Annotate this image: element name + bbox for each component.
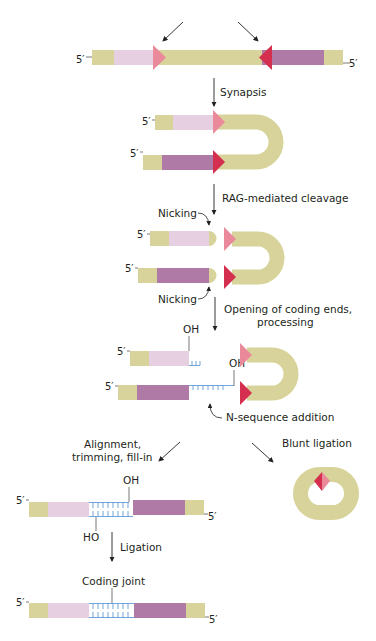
five-prime-label: 5′ [208,511,217,522]
rss-light-triangle [240,343,252,367]
initial-dna-strand: 5′ 5′ [76,22,358,70]
dark-coding-segment [157,268,209,283]
blunt-ligation-arrow [252,443,273,462]
vdj-recombination-diagram: 5′ 5′ Synapsis 5′ 5′ RAG-mediated cleava… [0,0,376,641]
opening-label-line1: Opening of coding ends, [224,303,352,315]
pointer-arrow [238,22,258,41]
flank-segment [130,351,149,366]
hairpin-cap [209,268,217,283]
rss-dark-triangle [224,265,236,289]
rss-dark-triangle [259,45,272,70]
nicking-bottom-label: Nicking [158,293,197,305]
flank-segment [155,115,173,130]
five-prime-label: 5′ [125,263,134,274]
rss-dark-triangle [240,381,252,405]
oh-top-label: OH [183,323,199,335]
loop-segment [213,122,276,162]
flank-segment [138,268,157,283]
dark-coding-segment [162,155,213,170]
blunt-ligation-label: Blunt ligation [282,437,352,449]
flank-segment [29,603,48,618]
light-coding-segment [114,50,154,65]
flank-segment [185,500,204,515]
alignment-label-line1: Alignment, [84,438,141,450]
synapsis-label: Synapsis [220,86,267,98]
flank-segment [118,385,137,400]
rss-light-triangle [224,227,236,251]
flank-segment [29,502,48,517]
rss-light-triangle [153,45,166,70]
alignment-label-line2: trimming, fill-in [72,451,153,463]
p-nucleotide-overhang [189,361,200,366]
five-prime-label: 5′ [209,614,218,625]
blunt-ligation-circle [301,472,352,513]
intervening-segment [154,50,262,65]
dark-coding-segment [133,500,185,515]
light-coding-segment [149,351,189,366]
dark-coding-segment [137,385,189,400]
five-prime-label: 5′ [76,54,85,65]
flank-segment [92,50,114,65]
ho-aligned-label: HO [83,531,99,543]
five-prime-label: 5′ [16,495,25,506]
five-prime-label: 5′ [16,597,25,608]
excised-loop [247,355,291,393]
n-sequence-arrow [210,404,222,418]
n-sequence-bases [193,386,223,391]
opened-coding-ends: OH 5′ OH 5′ N-sequence addition [105,323,334,423]
opening-label-line2: processing [257,316,314,328]
n-sequence-label: N-sequence addition [226,411,334,423]
cleaved-state: Nicking 5′ 5′ Nicking [125,207,277,305]
coding-joint-label: Coding joint [82,575,145,587]
synapsis-hairpin: 5′ 5′ [130,110,276,174]
dark-coding-segment [134,603,186,618]
flank-segment [150,231,169,246]
five-prime-label: 5′ [137,229,146,240]
ligation-label: Ligation [120,541,162,553]
light-coding-segment [48,502,89,517]
flank-segment [143,155,162,170]
light-coding-segment [169,231,209,246]
light-coding-segment [48,603,89,618]
nicking-bottom-arrow [198,287,209,299]
excised-loop [232,239,277,277]
pointer-arrow [163,22,183,41]
nicking-top-arrow [198,213,209,225]
rss-dark-triangle [213,150,225,174]
flank-segment [324,50,343,65]
aligned-coding-ends: OH 5′ 5′ HO [16,474,217,543]
coding-joint-strand: Coding joint 5′ 5′ [16,575,218,625]
five-prime-label: 5′ [105,381,114,392]
rss-light-triangle [213,110,225,134]
alignment-arrow [159,442,180,461]
n-region-strands [89,503,133,517]
oh-aligned-label: OH [123,474,139,486]
five-prime-label: 5′ [130,148,139,159]
five-prime-label: 5′ [142,116,151,127]
light-coding-segment [173,115,213,130]
five-prime-label: 5′ [117,346,126,357]
flank-segment [186,603,205,618]
coding-joint-region [89,603,134,618]
hairpin-cap [209,231,217,246]
rag-cleavage-label: RAG-mediated cleavage [222,192,348,204]
n-region-bases [93,503,128,517]
five-prime-label: 5′ [349,58,358,69]
nicking-top-label: Nicking [158,207,197,219]
